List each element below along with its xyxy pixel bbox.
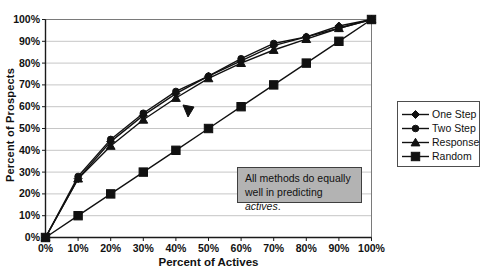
legend-item-one-step: One Step [402, 107, 479, 121]
y-tick-label: 30% [19, 166, 41, 178]
legend-triangle-icon [402, 137, 429, 148]
legend-marker-one-step [412, 110, 420, 118]
arrowhead-annotation [183, 105, 194, 117]
x-tick-label: 30% [133, 242, 155, 254]
y-axis-title: Percent of Prospects [4, 25, 16, 225]
legend-label-two-step: Two Step [432, 122, 476, 134]
legend-diamond-icon [402, 109, 429, 120]
legend-label-random: Random [432, 150, 472, 162]
legend-label-response: Response [432, 136, 479, 148]
marker-random [302, 59, 310, 67]
x-tick-label: 80% [296, 242, 318, 254]
annotation-text: All methods do equally well in predictin… [245, 172, 351, 198]
y-tick-label: 90% [19, 35, 41, 47]
marker-random [270, 81, 278, 89]
legend-label-one-step: One Step [432, 108, 476, 120]
x-tick-label: 100% [358, 242, 386, 254]
legend-item-two-step: Two Step [402, 121, 479, 135]
y-tick-label: 40% [19, 144, 41, 156]
marker-random [172, 146, 180, 154]
x-tick-label: 40% [165, 242, 187, 254]
marker-random [74, 212, 82, 220]
marker-random [237, 103, 245, 111]
legend-circle-icon [402, 123, 429, 134]
marker-random [107, 190, 115, 198]
x-axis-title: Percent of Actives [45, 256, 372, 268]
marker-random [367, 15, 375, 23]
x-tick-label: 0% [38, 242, 54, 254]
annotation-text-suffix: . [278, 200, 281, 212]
x-tick-label: 60% [231, 242, 253, 254]
x-tick-label: 20% [100, 242, 122, 254]
legend-item-random: Random [402, 149, 479, 163]
y-tick-label: 0% [25, 231, 41, 243]
y-tick-label: 70% [19, 78, 41, 90]
marker-random [139, 168, 147, 176]
annotation-box: All methods do equally well in predictin… [237, 167, 362, 203]
y-tick-label: 60% [19, 100, 41, 112]
legend-marker-random [411, 152, 419, 160]
marker-random [204, 124, 212, 132]
y-tick-label: 10% [19, 209, 41, 221]
legend-item-response: Response [402, 135, 479, 149]
marker-random [41, 233, 49, 241]
y-tick-label: 80% [19, 57, 41, 69]
y-tick-label: 50% [19, 122, 41, 134]
lift-chart: 0%10%20%30%40%50%60%70%80%90%100%0%10%20… [0, 0, 483, 274]
annotation-text-italic: actives [245, 200, 278, 212]
x-tick-label: 50% [198, 242, 220, 254]
x-tick-label: 10% [68, 242, 90, 254]
legend-marker-two-step [412, 125, 419, 132]
x-tick-label: 90% [328, 242, 350, 254]
x-tick-label: 70% [263, 242, 285, 254]
legend: One StepTwo StepResponseRandom [397, 101, 480, 167]
marker-random [335, 37, 343, 45]
y-tick-label: 20% [19, 187, 41, 199]
y-tick-label: 100% [13, 13, 41, 25]
legend-square-icon [402, 151, 429, 162]
